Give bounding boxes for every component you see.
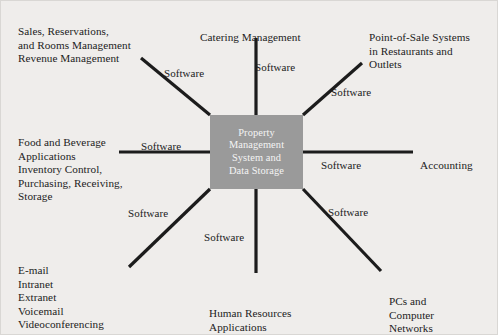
node-point-of-sale: Point-of-Sale Systems in Restaurants and… xyxy=(369,18,497,72)
edge-label-hr: Software xyxy=(204,231,244,243)
node-pcs-networks: PCs and Computer Networks xyxy=(389,282,479,335)
node-accounting: Accounting xyxy=(420,146,495,173)
node-human-resources-label: Human Resources Applications xyxy=(209,307,291,332)
node-point-of-sale-label: Point-of-Sale Systems in Restaurants and… xyxy=(369,31,470,70)
node-food-and-beverage: Food and Beverage Applications Inventory… xyxy=(18,123,153,203)
center-node-label: Property Management System and Data Stor… xyxy=(229,127,284,177)
node-catering-management-label: Catering Management xyxy=(200,31,301,43)
node-communications: E-mail Intranet Extranet Voicemail Video… xyxy=(18,251,153,331)
node-human-resources: Human Resources Applications xyxy=(209,294,339,334)
node-sales-reservations: Sales, Reservations, and Rooms Managemen… xyxy=(18,12,198,66)
edge-label-sales: Software xyxy=(164,67,204,79)
node-food-and-beverage-label: Food and Beverage Applications Inventory… xyxy=(18,136,123,202)
edge-label-pos: Software xyxy=(331,86,371,98)
edge-pcs xyxy=(303,189,381,271)
node-pcs-networks-label: PCs and Computer Networks xyxy=(389,295,434,334)
node-communications-label: E-mail Intranet Extranet Voicemail Video… xyxy=(18,264,104,330)
edge-label-food: Software xyxy=(141,140,181,152)
edge-label-pcs: Software xyxy=(328,206,368,218)
node-sales-reservations-label: Sales, Reservations, and Rooms Managemen… xyxy=(18,25,131,64)
edge-label-accounting: Software xyxy=(321,159,361,171)
center-node-property-management-system: Property Management System and Data Stor… xyxy=(210,115,303,189)
node-accounting-label: Accounting xyxy=(420,159,473,171)
edge-label-communications: Software xyxy=(128,207,168,219)
edge-label-catering: Software xyxy=(255,61,295,73)
diagram-figure: Property Management System and Data Stor… xyxy=(0,0,498,335)
node-catering-management: Catering Management xyxy=(200,18,335,45)
